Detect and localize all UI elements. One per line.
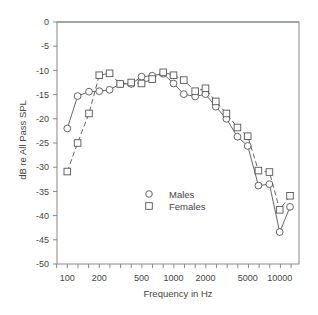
square-marker (276, 206, 283, 213)
square-marker (128, 79, 135, 86)
circle-marker (106, 86, 113, 93)
square-marker (223, 110, 230, 117)
circle-marker (96, 88, 103, 95)
square-marker (234, 124, 241, 131)
square-marker (96, 72, 103, 79)
y-tick-label: -40 (36, 211, 49, 221)
circle-marker (180, 91, 187, 98)
circle-marker (170, 80, 177, 87)
y-tick-label: -15 (36, 90, 49, 100)
x-tick-label: 2000 (195, 273, 215, 283)
circle-marker (266, 181, 273, 188)
circle-icon (146, 191, 153, 198)
circle-marker (255, 182, 262, 189)
square-marker (160, 69, 167, 76)
y-axis-title: dB re All Pass SPL (17, 100, 28, 180)
y-tick-label: -25 (36, 138, 49, 148)
square-marker (117, 81, 124, 88)
square-marker (86, 110, 93, 117)
square-marker (287, 192, 294, 199)
y-tick-label: -5 (41, 41, 49, 51)
legend-label-males: Males (169, 189, 195, 200)
square-marker (149, 76, 156, 83)
square-marker (266, 169, 273, 176)
y-tick-label: 0 (44, 17, 49, 27)
legend-label-females: Females (169, 201, 206, 212)
y-tick-label: -35 (36, 187, 49, 197)
x-tick-label: 200 (92, 273, 107, 283)
legend: Males Females (146, 189, 206, 212)
plot-area-frame (57, 22, 299, 264)
circle-marker (244, 143, 251, 150)
square-marker (138, 80, 145, 87)
circle-marker (74, 93, 81, 100)
circle-marker (276, 229, 283, 236)
x-tick-label: 5000 (238, 273, 258, 283)
square-icon (146, 203, 153, 210)
x-tick-label: 10000 (267, 273, 292, 283)
square-marker (106, 70, 113, 77)
circle-marker (86, 88, 93, 95)
square-marker (202, 85, 209, 92)
y-axis-ticks: 0-5-10-15-20-25-30-35-40-45-50 (36, 17, 57, 269)
square-marker (74, 140, 81, 147)
y-tick-label: -30 (36, 162, 49, 172)
square-marker (180, 77, 187, 84)
y-tick-label: -10 (36, 66, 49, 76)
square-marker (244, 133, 251, 140)
circle-marker (287, 203, 294, 210)
frequency-response-chart: 0-5-10-15-20-25-30-35-40-45-50 100200500… (0, 0, 318, 315)
x-axis-ticks: 10020050010002000500010000 (57, 264, 293, 283)
circle-marker (64, 125, 71, 132)
y-tick-label: -45 (36, 235, 49, 245)
x-axis-title: Frequency in Hz (143, 288, 212, 299)
square-marker (192, 88, 199, 95)
y-tick-label: -50 (36, 259, 49, 269)
x-tick-label: 1000 (163, 273, 183, 283)
square-marker (64, 168, 71, 175)
square-marker (255, 167, 262, 174)
square-marker (170, 72, 177, 79)
x-tick-label: 100 (60, 273, 75, 283)
y-tick-label: -20 (36, 114, 49, 124)
x-tick-label: 500 (134, 273, 149, 283)
circle-marker (138, 73, 145, 80)
circle-marker (234, 133, 241, 140)
square-marker (212, 98, 219, 105)
